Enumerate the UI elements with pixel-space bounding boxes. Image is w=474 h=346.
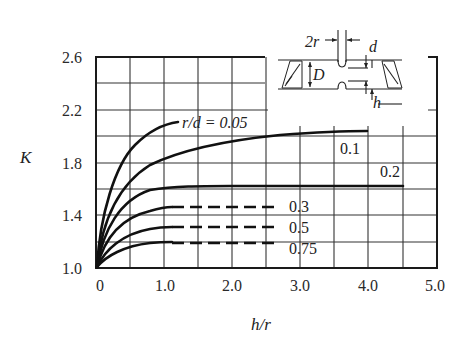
x-axis-label: h/r xyxy=(251,315,271,334)
x-tick-labels: 0 1.0 2.0 3.0 4.0 5.0 xyxy=(96,277,445,294)
label-rd-0.5: 0.5 xyxy=(289,219,309,236)
inset-label-D: D xyxy=(312,66,325,83)
curve-rd-0.75 xyxy=(97,242,172,267)
inset-notch-diagram: 2r d D h xyxy=(268,30,428,126)
svg-text:4.0: 4.0 xyxy=(358,277,378,294)
label-rd-0.3: 0.3 xyxy=(289,198,309,215)
chart-canvas: r/d = 0.05 0.1 0.2 0.3 0.5 0.75 2.6 2.2 … xyxy=(0,0,474,346)
y-axis-label: K xyxy=(19,148,33,167)
svg-text:3.0: 3.0 xyxy=(290,277,310,294)
svg-text:1.0: 1.0 xyxy=(62,260,82,277)
svg-text:1.0: 1.0 xyxy=(155,277,175,294)
inset-label-d: d xyxy=(369,38,378,55)
inset-label-2r: 2r xyxy=(305,33,320,50)
svg-text:0: 0 xyxy=(96,277,104,294)
svg-text:5.0: 5.0 xyxy=(425,277,445,294)
inset-label-h: h xyxy=(373,94,381,111)
label-rd-0.05: r/d = 0.05 xyxy=(182,114,247,131)
svg-text:1.4: 1.4 xyxy=(62,207,82,224)
label-rd-0.2: 0.2 xyxy=(380,163,400,180)
svg-text:2.2: 2.2 xyxy=(62,102,82,119)
label-rd-0.1: 0.1 xyxy=(340,140,360,157)
svg-text:2.0: 2.0 xyxy=(222,277,242,294)
label-rd-0.75: 0.75 xyxy=(289,240,317,257)
svg-text:1.8: 1.8 xyxy=(62,155,82,172)
svg-text:2.6: 2.6 xyxy=(62,49,82,66)
y-tick-labels: 2.6 2.2 1.8 1.4 1.0 xyxy=(62,49,82,277)
